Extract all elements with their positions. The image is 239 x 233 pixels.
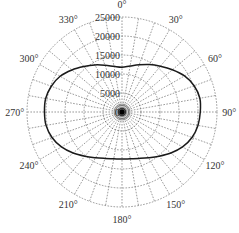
- grid-spoke: [122, 30, 170, 112]
- radial-label: 15000: [95, 50, 120, 61]
- angle-label: 0°: [118, 0, 127, 10]
- grid-spoke: [122, 51, 195, 112]
- angle-label: 60°: [208, 53, 222, 64]
- angle-label: 270°: [5, 107, 24, 118]
- grid-spoke: [122, 39, 183, 112]
- angle-label: 150°: [166, 199, 185, 210]
- polar-chart: 0°30°60°90°120°150°180°210°240°270°300°3…: [0, 0, 239, 233]
- grid-spoke: [49, 112, 122, 173]
- radial-label: 10000: [95, 69, 120, 80]
- angle-label: 90°: [222, 107, 236, 118]
- angle-label: 180°: [113, 214, 132, 225]
- grid-spoke: [122, 65, 204, 113]
- grid-spoke: [122, 112, 195, 173]
- angle-label: 330°: [59, 14, 78, 25]
- grid-spoke: [122, 112, 204, 160]
- grid-spoke: [40, 112, 122, 160]
- angle-label: 30°: [169, 14, 183, 25]
- grid-spoke: [75, 112, 123, 194]
- angle-label: 120°: [205, 160, 224, 171]
- angle-label: 240°: [20, 160, 39, 171]
- angle-label: 210°: [59, 199, 78, 210]
- radial-label: 5000: [100, 88, 120, 99]
- grid-spoke: [122, 112, 183, 185]
- grid-spoke: [61, 112, 122, 185]
- grid-spoke: [122, 112, 170, 194]
- radial-label: 20000: [95, 31, 120, 42]
- radial-label: 0: [115, 107, 120, 118]
- radial-label: 25000: [95, 12, 120, 23]
- angle-label: 300°: [20, 53, 39, 64]
